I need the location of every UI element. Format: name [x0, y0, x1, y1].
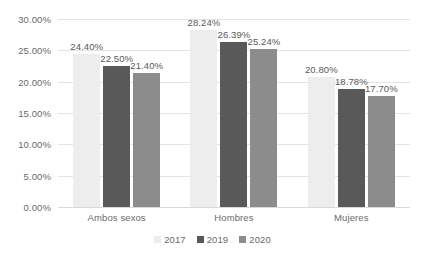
y-axis-tick-label: 0.00%	[0, 202, 51, 213]
chart-legend: 201720192020	[0, 234, 425, 245]
bar-cluster: 20.80%18.78%17.70%	[293, 19, 410, 207]
bar-value-label: 20.80%	[305, 64, 338, 75]
y-axis-tick-label: 20.00%	[0, 76, 51, 87]
bar-chart: 24.40%22.50%21.40%28.24%26.39%25.24%20.8…	[0, 0, 425, 257]
category-axis-labels: Ambos sexosHombresMujeres	[58, 212, 410, 223]
bar-2017-ambos-sexos[interactable]	[73, 54, 100, 207]
bar-groups: 24.40%22.50%21.40%28.24%26.39%25.24%20.8…	[58, 19, 410, 207]
bar-slot: 28.24%	[190, 19, 217, 207]
category-label: Hombres	[175, 212, 292, 223]
bar-value-label: 21.40%	[130, 60, 163, 71]
bar-group: 28.24%26.39%25.24%	[175, 19, 292, 207]
bar-slot: 21.40%	[133, 19, 160, 207]
bar-2020-mujeres[interactable]	[368, 96, 395, 207]
bar-value-label: 18.78%	[335, 76, 368, 87]
legend-label: 2019	[207, 234, 229, 245]
bar-cluster: 24.40%22.50%21.40%	[58, 19, 175, 207]
legend-item-2017[interactable]: 2017	[154, 234, 186, 245]
bar-value-label: 28.24%	[188, 17, 221, 28]
legend-label: 2017	[164, 234, 186, 245]
bar-group: 24.40%22.50%21.40%	[58, 19, 175, 207]
bar-value-label: 25.24%	[248, 36, 281, 47]
bar-2017-mujeres[interactable]	[308, 77, 335, 207]
bar-cluster: 28.24%26.39%25.24%	[175, 19, 292, 207]
bar-value-label: 26.39%	[218, 29, 251, 40]
legend-swatch-icon	[154, 236, 161, 243]
legend-item-2020[interactable]: 2020	[239, 234, 271, 245]
legend-swatch-icon	[239, 236, 246, 243]
bar-2019-hombres[interactable]	[220, 42, 247, 207]
bar-slot: 22.50%	[103, 19, 130, 207]
bar-slot: 24.40%	[73, 19, 100, 207]
bar-2020-ambos-sexos[interactable]	[133, 73, 160, 207]
category-label: Mujeres	[293, 212, 410, 223]
bar-slot: 25.24%	[250, 19, 277, 207]
y-axis-tick-label: 30.00%	[0, 14, 51, 25]
y-axis-tick-label: 15.00%	[0, 108, 51, 119]
bar-2019-mujeres[interactable]	[338, 89, 365, 207]
y-axis-tick-label: 5.00%	[0, 170, 51, 181]
category-label: Ambos sexos	[58, 212, 175, 223]
y-axis-tick-label: 10.00%	[0, 139, 51, 150]
gridline	[58, 207, 410, 208]
bar-2020-hombres[interactable]	[250, 49, 277, 207]
bar-2019-ambos-sexos[interactable]	[103, 66, 130, 207]
bar-2017-hombres[interactable]	[190, 30, 217, 207]
bar-value-label: 22.50%	[100, 53, 133, 64]
legend-label: 2020	[249, 234, 271, 245]
legend-item-2019[interactable]: 2019	[197, 234, 229, 245]
bar-group: 20.80%18.78%17.70%	[293, 19, 410, 207]
bar-value-label: 24.40%	[70, 41, 103, 52]
bar-slot: 17.70%	[368, 19, 395, 207]
bar-slot: 26.39%	[220, 19, 247, 207]
legend-swatch-icon	[197, 236, 204, 243]
bar-slot: 18.78%	[338, 19, 365, 207]
y-axis-tick-label: 25.00%	[0, 45, 51, 56]
bar-value-label: 17.70%	[365, 83, 398, 94]
bar-slot: 20.80%	[308, 19, 335, 207]
